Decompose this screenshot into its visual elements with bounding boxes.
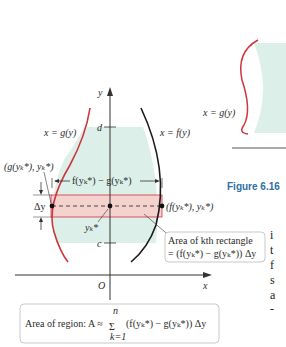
width-label: f(yₖ*) − g(yₖ*) — [72, 175, 132, 187]
figure-caption: Figure 6.16 — [227, 181, 280, 192]
y-axis-arrow — [107, 87, 113, 96]
sum-upper: n — [113, 305, 118, 316]
side-text-4: s — [270, 273, 275, 288]
tick-c-label: c — [97, 238, 102, 249]
area-between-curves-diagram: f(yₖ*) − g(yₖ*) Δy y d c O x x = g(y) x … — [0, 0, 286, 347]
sum-expression: (f(yₖ*) − g(yₖ*)) Δy — [126, 318, 206, 330]
mid-point — [108, 204, 113, 209]
side-shaded-region — [254, 43, 286, 133]
right-point — [160, 204, 165, 209]
origin-label: O — [98, 280, 105, 291]
left-point — [50, 204, 55, 209]
g-curve-label: x = g(y) — [43, 127, 77, 139]
side-text-5: a — [270, 288, 275, 303]
sum-lower: k=1 — [110, 331, 126, 342]
mid-point-label: yₖ* — [84, 222, 98, 233]
f-curve-label: x = f(y) — [159, 127, 191, 139]
side-text-1: i — [270, 228, 273, 243]
side-text-2: t — [270, 243, 273, 258]
right-point-label: (f(yₖ*), yₖ*) — [166, 201, 214, 213]
left-point-label: (g(yₖ*), yₖ*) — [4, 161, 54, 173]
side-text-3: f — [270, 258, 274, 273]
y-axis-label: y — [97, 87, 103, 98]
rectangle-callout-line1: Area of kth rectangle — [168, 235, 253, 246]
side-curve-label: x = g(y) — [202, 107, 236, 119]
x-axis-arrow — [203, 272, 212, 278]
region-callout-prefix: Area of region: A ≈ — [25, 318, 103, 329]
x-axis-label: x — [202, 280, 208, 291]
delta-y-label: Δy — [34, 201, 45, 212]
side-curve-g — [241, 40, 258, 134]
side-text-6: - — [270, 302, 274, 317]
rectangle-callout-line2: = (f(yₖ*) − g(yₖ*)) Δy — [168, 248, 256, 260]
